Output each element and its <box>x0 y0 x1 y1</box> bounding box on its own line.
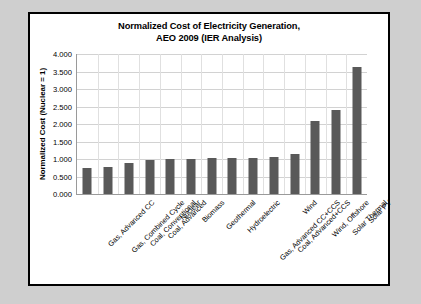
vertical-gridline <box>346 54 347 194</box>
plot-area: 0.0000.5001.0001.5002.0002.5003.0003.500… <box>76 54 367 195</box>
chart-title-line-1: Normalized Cost of Electricity Generatio… <box>30 20 388 32</box>
bar <box>249 158 258 194</box>
bar <box>186 159 195 194</box>
bar <box>207 158 216 194</box>
vertical-gridline <box>139 54 140 194</box>
chart-frame: Normalized Cost of Electricity Generatio… <box>28 12 390 286</box>
vertical-gridline <box>326 54 327 194</box>
bar <box>124 163 133 195</box>
chart-title-line-2: AEO 2009 (IER Analysis) <box>30 32 388 44</box>
chart-title: Normalized Cost of Electricity Generatio… <box>30 20 388 44</box>
vertical-gridline <box>118 54 119 194</box>
vertical-gridline <box>263 54 264 194</box>
bar <box>352 67 361 194</box>
bar <box>166 159 175 194</box>
vertical-gridline <box>222 54 223 194</box>
bar <box>290 154 299 194</box>
bar <box>331 110 340 194</box>
bar <box>104 167 113 194</box>
bar <box>311 121 320 194</box>
vertical-gridline <box>181 54 182 194</box>
y-axis-tick-label: 1.500 <box>53 137 72 146</box>
y-axis-tick-label: 2.500 <box>53 102 72 111</box>
y-axis-tick-label: 4.000 <box>53 50 72 59</box>
y-axis-tick-label: 3.000 <box>53 85 72 94</box>
y-axis-tick-label: 0.500 <box>53 172 72 181</box>
bar <box>228 158 237 194</box>
vertical-gridline <box>160 54 161 194</box>
vertical-gridline <box>305 54 306 194</box>
y-axis-tick-label: 3.500 <box>53 67 72 76</box>
bar <box>83 168 92 194</box>
bar <box>145 160 154 194</box>
y-axis-tick-label: 1.000 <box>53 155 72 164</box>
bar <box>269 157 278 194</box>
x-axis-labels: Gas, Advanced CCGas, Combined CycleCoal,… <box>76 196 366 296</box>
x-axis-tick-label: Wind <box>300 198 318 216</box>
y-axis-label: Normalized Cost (Nuclear = 1) <box>38 68 47 180</box>
y-axis-tick-label: 2.000 <box>53 120 72 129</box>
gridline <box>77 194 367 195</box>
vertical-gridline <box>201 54 202 194</box>
vertical-gridline <box>284 54 285 194</box>
vertical-gridline <box>243 54 244 194</box>
vertical-gridline <box>98 54 99 194</box>
y-axis-tick-label: 0.000 <box>53 190 72 199</box>
